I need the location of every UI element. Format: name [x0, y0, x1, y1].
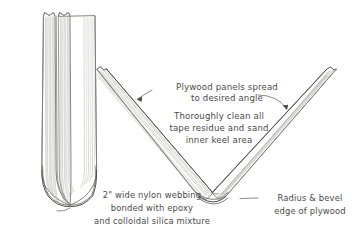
annotation-plywood-spread: Plywood panels spread to desired angle — [176, 82, 278, 103]
annotation-radius-bevel-line1: Radius & bevel — [278, 193, 343, 203]
left-view-closed-keel — [42, 13, 97, 207]
annotation-plywood-spread-line2: to desired angle — [191, 93, 263, 103]
annotation-nylon-webbing: 2" wide nylon webbing bonded with epoxy … — [94, 190, 210, 226]
annotation-clean-tape-line3: inner keel area — [186, 135, 253, 145]
annotation-nylon-webbing-line1: 2" wide nylon webbing — [103, 190, 202, 200]
annotation-radius-bevel-line2: edge of plywood — [274, 206, 346, 216]
annotation-clean-tape-line1: Thoroughly clean all — [173, 111, 264, 121]
arrowhead-plywood-spread-right — [283, 105, 289, 110]
diagram-root: Plywood keel panel assembly detail — [0, 0, 363, 247]
annotation-nylon-webbing-line3: and colloidal silica mixture — [94, 216, 210, 226]
leader-nylon-webbing — [57, 208, 70, 211]
technical-illustration: Plywood keel panel assembly detail — [0, 0, 363, 247]
leader-radius-bevel — [240, 198, 258, 199]
leader-plywood-spread-left — [138, 90, 152, 99]
annotation-radius-bevel: Radius & bevel edge of plywood — [274, 193, 346, 216]
annotation-plywood-spread-line1: Plywood panels spread — [176, 82, 278, 92]
annotation-clean-tape-line2: tape residue and sand — [169, 123, 268, 133]
annotation-clean-tape: Thoroughly clean all tape residue and sa… — [169, 111, 268, 145]
annotation-nylon-webbing-line2: bonded with epoxy — [111, 203, 193, 213]
